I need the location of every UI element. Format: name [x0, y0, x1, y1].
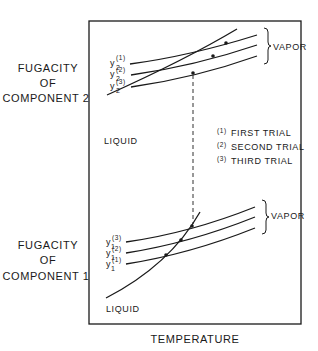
svg-text:y: y: [110, 58, 115, 68]
vapor-label-lower: VAPOR: [271, 211, 305, 221]
vapor-curve-y2-1: [130, 35, 257, 64]
liquid-curve-lower: [106, 212, 200, 298]
vapor-brace-lower: [262, 200, 269, 234]
svg-text:OF: OF: [40, 77, 56, 89]
curve-label-y2-3: y 2 (3): [110, 78, 126, 94]
svg-text:(2): (2): [116, 66, 126, 74]
lower-panel: y 1 (3) y 1 (2) y 1 (1) LIQUID VAPOR: [106, 200, 305, 314]
intersection-point: [211, 54, 215, 58]
svg-text:OF: OF: [40, 254, 56, 266]
svg-text:(1): (1): [116, 54, 126, 62]
svg-text:(3): (3): [112, 234, 122, 242]
vapor-brace-upper: [264, 28, 271, 64]
intersection-point: [224, 41, 228, 45]
svg-text:(1): (1): [217, 127, 227, 135]
legend: (1) FIRST TRIAL (2) SECOND TRIAL (3) THI…: [217, 127, 305, 166]
svg-text:y: y: [110, 81, 115, 91]
intersection-point: [179, 238, 183, 242]
liquid-label-upper: LIQUID: [104, 136, 138, 146]
svg-text:FIRST TRIAL: FIRST TRIAL: [231, 128, 291, 138]
svg-text:2: 2: [116, 87, 121, 94]
y-axis-label-upper: FUGACITY OF COMPONENT 2: [2, 62, 89, 104]
y-axis-label-lower: FUGACITY OF COMPONENT 1: [2, 239, 89, 282]
svg-text:y: y: [110, 69, 115, 79]
liquid-label-lower: LIQUID: [106, 304, 140, 314]
x-axis-label: TEMPERATURE: [151, 333, 240, 345]
intersection-point: [190, 224, 194, 228]
svg-text:(3): (3): [217, 155, 227, 163]
vapor-curve-y1-1: [126, 228, 255, 264]
svg-text:FUGACITY: FUGACITY: [18, 62, 78, 74]
vapor-curve-y2-2: [131, 45, 257, 75]
svg-text:(3): (3): [116, 78, 126, 86]
curve-label-y1-1: y 1 (1): [106, 256, 122, 272]
svg-text:COMPONENT 2: COMPONENT 2: [2, 92, 89, 104]
svg-text:THIRD TRIAL: THIRD TRIAL: [231, 156, 293, 166]
svg-text:1: 1: [111, 265, 116, 272]
intersection-point: [164, 253, 168, 257]
svg-text:SECOND TRIAL: SECOND TRIAL: [231, 142, 305, 152]
svg-text:FUGACITY: FUGACITY: [18, 239, 78, 251]
svg-text:(1): (1): [112, 256, 122, 264]
svg-text:(2): (2): [217, 141, 227, 149]
svg-text:COMPONENT 1: COMPONENT 1: [2, 270, 89, 282]
fugacity-temperature-diagram: FUGACITY OF COMPONENT 2 FUGACITY OF COMP…: [0, 0, 318, 351]
svg-text:(2): (2): [112, 245, 122, 253]
intersection-point: [191, 71, 195, 75]
liquid-curve-upper: [107, 29, 237, 95]
vapor-label-upper: VAPOR: [273, 42, 307, 52]
